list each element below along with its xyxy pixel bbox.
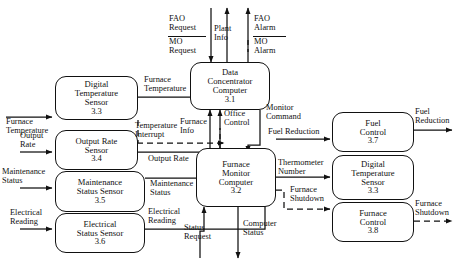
label-temperature-interrupt-flow: Temperature Interrupt bbox=[135, 122, 177, 139]
process-number: 3.1 bbox=[225, 95, 236, 104]
data-flow-diagram: Digital Temperature Sensor 3.3 Output Ra… bbox=[0, 0, 464, 263]
label-maintenance-status-flow: Maintenance Status bbox=[150, 180, 193, 197]
process-digital-temperature-sensor-3-3-left[interactable]: Digital Temperature Sensor 3.3 bbox=[55, 76, 138, 120]
process-data-concentrator-computer-3-1[interactable]: Data Concentrator Computer 3.1 bbox=[190, 62, 270, 110]
process-number: 3.3 bbox=[368, 186, 379, 195]
process-furnace-control-3-8[interactable]: Furnace Control 3.8 bbox=[332, 202, 414, 242]
label-furnace-shutdown-output: Furnace Shutdown bbox=[415, 200, 449, 217]
label-furnace-temperature-flow: Furnace Temperature bbox=[144, 76, 186, 93]
process-furnace-monitor-computer-3-2[interactable]: Furnace Monitor Computer 3.2 bbox=[196, 148, 276, 207]
label-office-control: Office Control bbox=[224, 110, 250, 127]
process-electrical-status-sensor-3-6[interactable]: Electrical Status Sensor 3.6 bbox=[55, 213, 145, 253]
label-mo-alarm: MO Alarm bbox=[254, 38, 275, 55]
process-number: 3.6 bbox=[95, 237, 106, 246]
label-furnace-info: Furnace Info bbox=[180, 118, 207, 135]
label-mo-request: MO Request bbox=[169, 38, 196, 55]
label-output-rate-input: Output Rate bbox=[20, 132, 43, 149]
process-number: 3.3 bbox=[91, 107, 102, 116]
process-number: 3.7 bbox=[368, 136, 379, 145]
process-maintenance-status-sensor-3-5[interactable]: Maintenance Status Sensor 3.5 bbox=[55, 171, 145, 212]
label-fuel-reduction-flow: Fuel Reduction bbox=[268, 128, 319, 137]
label-electrical-reading-input: Electrical Reading bbox=[10, 209, 42, 226]
process-fuel-control-3-7[interactable]: Fuel Control 3.7 bbox=[332, 112, 414, 152]
process-number: 3.5 bbox=[95, 196, 106, 205]
process-number: 3.4 bbox=[91, 154, 102, 163]
label-monitor-command: Monitor Command bbox=[266, 104, 301, 121]
label-electrical-reading-flow: Electrical Reading bbox=[148, 208, 180, 225]
label-computer-status: Computer Status bbox=[243, 220, 277, 237]
label-status-request: Status Request bbox=[184, 224, 211, 241]
label-output-rate-flow: Output Rate bbox=[148, 155, 189, 164]
process-digital-temperature-sensor-3-3-right[interactable]: Digital Temperature Sensor 3.3 bbox=[332, 155, 414, 200]
label-fao-request: FAO Request bbox=[169, 15, 196, 32]
process-number: 3.2 bbox=[231, 186, 242, 195]
label-furnace-shutdown-flow: Furnace Shutdown bbox=[290, 186, 324, 203]
label-maintenance-status-input: Maintenance Status bbox=[2, 168, 45, 185]
label-thermometer-number: Thermometer Number bbox=[278, 159, 324, 176]
label-fao-alarm: FAO Alarm bbox=[254, 15, 275, 32]
label-fuel-reduction-output: Fuel Reduction bbox=[415, 108, 449, 125]
flow-monitor-command-down bbox=[248, 110, 260, 152]
process-output-rate-sensor-3-4[interactable]: Output Rate Sensor 3.4 bbox=[55, 130, 138, 170]
label-plant-info: Plant Info bbox=[214, 25, 231, 42]
process-number: 3.8 bbox=[368, 226, 379, 235]
